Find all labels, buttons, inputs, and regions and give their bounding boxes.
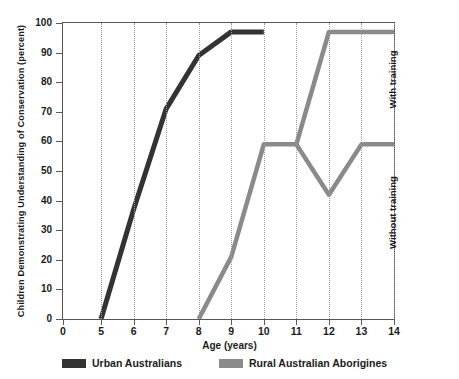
x-tick-label: 8 [184, 325, 214, 337]
x-tick-label: 11 [281, 325, 311, 337]
y-tick-label: 40 [22, 195, 52, 206]
legend-swatch [62, 359, 86, 368]
series-lines [63, 23, 394, 319]
x-tick-mark [264, 320, 265, 325]
legend-label: Urban Australians [92, 357, 182, 369]
x-tick-mark [394, 320, 395, 325]
gridline [329, 23, 330, 319]
legend-label: Rural Australian Aborigines [249, 357, 387, 369]
series-line [296, 144, 394, 194]
x-tick-label: 9 [216, 325, 246, 337]
x-tick-mark [199, 320, 200, 325]
gridline [361, 23, 362, 319]
y-tick-label: 10 [22, 283, 52, 294]
y-tick-label: 80 [22, 76, 52, 87]
plot-area: With training Without training [62, 22, 395, 320]
annotation-without-training: Without training [387, 153, 398, 273]
series-line [296, 32, 394, 144]
series-line [101, 32, 264, 319]
chart-figure: Children Demonstrating Understanding of … [0, 0, 459, 379]
legend-item: Rural Australian Aborigines [219, 357, 387, 369]
x-tick-mark [101, 320, 102, 325]
legend-item: Urban Australians [62, 357, 182, 369]
x-tick-label: 5 [86, 325, 116, 337]
gridline [101, 23, 102, 319]
x-tick-label: 12 [314, 325, 344, 337]
x-tick-mark [231, 320, 232, 325]
gridline [199, 23, 200, 319]
series-line [199, 144, 297, 319]
y-tick-label: 30 [22, 224, 52, 235]
y-tick-label: 90 [22, 47, 52, 58]
x-tick-label: 13 [346, 325, 376, 337]
x-tick-label: 0 [48, 325, 78, 337]
gridline [134, 23, 135, 319]
chart-legend: Urban AustraliansRural Australian Aborig… [0, 357, 459, 375]
y-tick-label: 50 [22, 165, 52, 176]
x-tick-mark [166, 320, 167, 325]
x-tick-mark [361, 320, 362, 325]
gridline [231, 23, 232, 319]
x-tick-label: 7 [151, 325, 181, 337]
y-tick-label: 0 [22, 313, 52, 324]
x-tick-mark [63, 320, 64, 325]
y-tick-label: 20 [22, 254, 52, 265]
gridline [296, 23, 297, 319]
gridline [166, 23, 167, 319]
y-tick-label: 60 [22, 135, 52, 146]
x-tick-label: 6 [119, 325, 149, 337]
y-tick-label: 100 [22, 17, 52, 28]
legend-swatch [219, 359, 243, 368]
y-tick-label: 70 [22, 106, 52, 117]
x-tick-mark [296, 320, 297, 325]
gridline [264, 23, 265, 319]
x-axis-title: Age (years) [0, 340, 459, 351]
x-tick-mark [134, 320, 135, 325]
annotation-with-training: With training [387, 20, 398, 140]
x-tick-label: 10 [249, 325, 279, 337]
x-tick-label: 14 [379, 325, 409, 337]
x-tick-mark [329, 320, 330, 325]
